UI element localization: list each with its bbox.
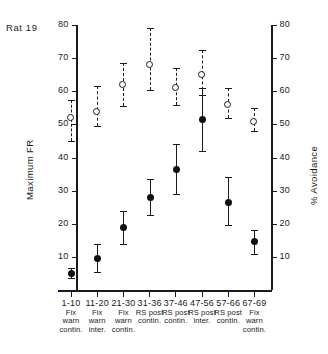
error-bar-cap-upper — [225, 177, 232, 178]
y-tick-left — [72, 91, 77, 92]
data-marker-open — [119, 81, 126, 88]
error-bar-cap-lower — [147, 90, 154, 91]
x-category-label: 67-69Fixwarncontin. — [232, 299, 276, 334]
y-tick-right — [272, 124, 277, 125]
y-tick-right — [272, 158, 277, 159]
y-tick-label-right: 40 — [280, 152, 291, 162]
error-bar-cap-upper — [68, 100, 75, 101]
error-bar-cap-upper — [199, 50, 206, 51]
data-marker-open — [250, 118, 257, 125]
error-bar-cap-lower — [120, 244, 127, 245]
y-tick-label-left: 70 — [35, 52, 69, 62]
y-tick-right — [272, 224, 277, 225]
error-bar — [150, 28, 151, 89]
error-bar-cap-upper — [225, 88, 232, 89]
y-tick-label-left: 20 — [35, 218, 69, 228]
y-tick-label-right: 60 — [280, 85, 291, 95]
data-marker-open — [67, 114, 74, 121]
x-tick — [254, 291, 255, 297]
x-tick — [175, 291, 176, 297]
y-tick-label-right: 20 — [280, 218, 291, 228]
y-tick-label-left: 10 — [35, 251, 69, 261]
error-bar — [97, 86, 98, 126]
error-bar-cap-lower — [251, 254, 258, 255]
bottom-axis-line — [58, 290, 272, 292]
data-marker-filled — [94, 255, 101, 262]
error-bar-cap-lower — [199, 95, 206, 96]
data-marker-open — [93, 108, 100, 115]
y-tick-label-right: 30 — [280, 185, 291, 195]
y-tick-label-left: 60 — [35, 85, 69, 95]
data-marker-filled — [120, 224, 127, 231]
error-bar-cap-upper — [147, 179, 154, 180]
error-bar-cap-lower — [199, 151, 206, 152]
error-bar-cap-lower — [94, 272, 101, 273]
left-axis-title: Maximum FR — [24, 140, 35, 200]
y-tick-left — [72, 257, 77, 258]
data-marker-filled — [225, 199, 232, 206]
y-tick-left — [72, 158, 77, 159]
x-tick — [97, 291, 98, 297]
data-marker-filled — [147, 194, 154, 201]
data-marker-filled — [199, 116, 206, 123]
y-tick-label-right: 10 — [280, 251, 291, 261]
x-tick — [71, 291, 72, 297]
y-tick-right — [272, 257, 277, 258]
y-tick-label-left: 50 — [35, 118, 69, 128]
x-tick — [228, 291, 229, 297]
data-marker-filled — [68, 270, 75, 277]
error-bar-cap-lower — [147, 215, 154, 216]
y-tick-right — [272, 91, 277, 92]
error-bar-cap-lower — [94, 126, 101, 127]
data-marker-open — [224, 101, 231, 108]
error-bar-cap-upper — [147, 28, 154, 29]
data-marker-open — [172, 84, 179, 91]
y-tick-left — [72, 25, 77, 26]
y-tick-label-right: 70 — [280, 52, 291, 62]
error-bar-cap-lower — [173, 105, 180, 106]
y-tick-right — [272, 191, 277, 192]
error-bar-cap-lower — [68, 141, 75, 142]
error-bar-cap-upper — [173, 68, 180, 69]
data-marker-filled — [173, 166, 180, 173]
chart-figure: Rat 19 Maximum FR % Avoidance 1020304050… — [0, 0, 328, 354]
error-bar-cap-upper — [120, 211, 127, 212]
x-tick — [123, 291, 124, 297]
data-marker-open — [146, 61, 153, 68]
y-tick-left — [72, 224, 77, 225]
y-tick-left — [72, 191, 77, 192]
y-tick-label-right: 50 — [280, 118, 291, 128]
y-tick-label-left: 80 — [35, 19, 69, 29]
y-tick-left — [72, 58, 77, 59]
right-axis-title: % Avoidance — [308, 146, 319, 205]
error-bar-cap-upper — [251, 230, 258, 231]
error-bar-cap-lower — [225, 225, 232, 226]
x-tick — [202, 291, 203, 297]
error-bar-cap-upper — [94, 86, 101, 87]
y-tick-right — [272, 25, 277, 26]
error-bar-cap-lower — [225, 118, 232, 119]
x-tick — [149, 291, 150, 297]
error-bar-cap-upper — [173, 144, 180, 145]
y-tick-left — [72, 124, 77, 125]
error-bar-cap-lower — [251, 131, 258, 132]
y-tick-label-left: 40 — [35, 152, 69, 162]
error-bar-cap-upper — [251, 108, 258, 109]
data-marker-filled — [251, 238, 258, 245]
error-bar-cap-upper — [120, 63, 127, 64]
error-bar-cap-lower — [120, 106, 127, 107]
subject-label: Rat 19 — [6, 22, 38, 33]
error-bar-cap-lower — [173, 194, 180, 195]
error-bar-cap-upper — [94, 244, 101, 245]
y-tick-right — [272, 58, 277, 59]
data-marker-open — [198, 71, 205, 78]
y-tick-label-left: 30 — [35, 185, 69, 195]
y-tick-label-right: 80 — [280, 19, 291, 29]
error-bar-cap-lower — [68, 278, 75, 279]
